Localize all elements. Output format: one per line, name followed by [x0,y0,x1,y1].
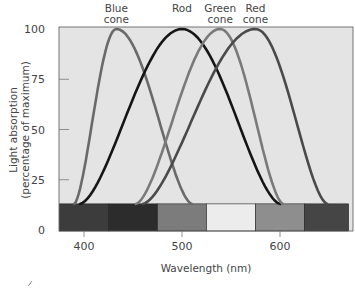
x-axis-label: Wavelength (nm) [161,262,252,274]
curve-label: Rod [172,2,192,14]
y-tick-label: 50 [31,124,45,137]
spectrum-bar [60,204,349,231]
y-axis-label-line: Light absorption [7,87,19,173]
y-axis-label: Light absorption(percentage of maximum) [7,61,31,199]
y-tick-label: 100 [24,23,45,36]
pencil-mark-icon [28,281,32,286]
spectrum-segment [256,204,305,231]
x-tick-label: 500 [172,240,193,253]
curve-label: cone [104,13,129,25]
curve-labels: BlueconeRodGreenconeRedcone [104,2,268,25]
y-tick-label: 0 [38,224,45,237]
x-tick-label: 600 [270,240,291,253]
y-tick-label: 25 [31,174,45,187]
curve-label: cone [208,13,233,25]
x-axis-ticks: 400500600 [74,231,291,253]
y-tick-label: 75 [31,73,45,86]
spectrum-segment [158,204,207,231]
spectrum-segment [109,204,158,231]
curve-label: cone [243,13,268,25]
y-axis-label-line: (percentage of maximum) [19,61,31,199]
spectrum-segment [60,204,109,231]
spectrum-segment [305,204,349,231]
absorption-chart: 0255075100 400500600 BlueconeRodGreencon… [0,0,355,289]
x-tick-label: 400 [74,240,95,253]
spectrum-segment [207,204,256,231]
